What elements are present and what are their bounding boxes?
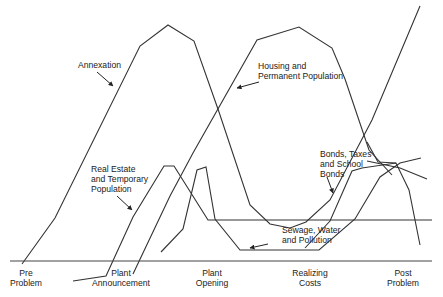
curve-label-line: Sewage, Water	[282, 225, 341, 235]
pointer-arrow-icon	[327, 177, 333, 193]
pointer-arrow-icon	[117, 196, 132, 210]
x-axis-label-line: Realizing	[292, 268, 328, 278]
pointer-arrow-icon	[97, 72, 113, 86]
curves-group	[22, 6, 432, 281]
x-axis-label-line: Announcement	[92, 278, 150, 288]
x-axis-label-line: Plant	[111, 268, 131, 278]
diagram-figure: AnnexationHousing andPermanent Populatio…	[0, 0, 443, 297]
x-axis-label-line: Post	[394, 268, 412, 278]
x-axis-label-line: Opening	[196, 278, 229, 288]
x-axis-label: PostProblem	[387, 268, 419, 288]
curve-label-line: and Pollution	[282, 235, 332, 245]
x-axis-label: PreProblem	[10, 268, 42, 288]
x-axis-label: PlantOpening	[196, 268, 229, 288]
pointer-arrow-icon	[237, 82, 259, 88]
curve-label-housing: Housing andPermanent Population	[258, 61, 343, 81]
curve-label-line: Population	[91, 184, 132, 194]
curve-label-line: Bonds, Taxes	[320, 149, 371, 159]
curve-label-line: and Temporary	[91, 174, 149, 184]
curve-label-line: and School	[320, 159, 363, 169]
curve-label-line: Bonds	[320, 169, 344, 179]
x-axis-label: RealizingCosts	[292, 268, 328, 288]
curve-annexation	[22, 6, 420, 264]
curve-post-decline	[367, 161, 427, 179]
x-axis-labels-group: PreProblemPlantAnnouncementPlantOpeningR…	[10, 268, 419, 288]
x-axis-label-line: Costs	[299, 278, 321, 288]
pointer-arrow-icon	[250, 244, 268, 248]
curve-label-sewage: Sewage, Waterand Pollution	[282, 225, 341, 245]
x-axis-label: PlantAnnouncement	[92, 268, 150, 288]
x-axis-label-line: Pre	[19, 268, 33, 278]
curve-label-line: Real Estate	[91, 164, 136, 174]
curve-label-line: Annexation	[78, 60, 121, 70]
x-axis-label-line: Plant	[202, 268, 222, 278]
x-axis-label-line: Problem	[10, 278, 42, 288]
curve-label-bonds: Bonds, Taxesand SchoolBonds	[320, 149, 371, 179]
x-axis-label-line: Problem	[387, 278, 419, 288]
curve-label-annexation: Annexation	[78, 60, 121, 70]
curve-label-real-estate: Real Estateand TemporaryPopulation	[91, 164, 149, 194]
curve-label-line: Housing and	[258, 61, 306, 71]
curve-label-line: Permanent Population	[258, 71, 343, 81]
